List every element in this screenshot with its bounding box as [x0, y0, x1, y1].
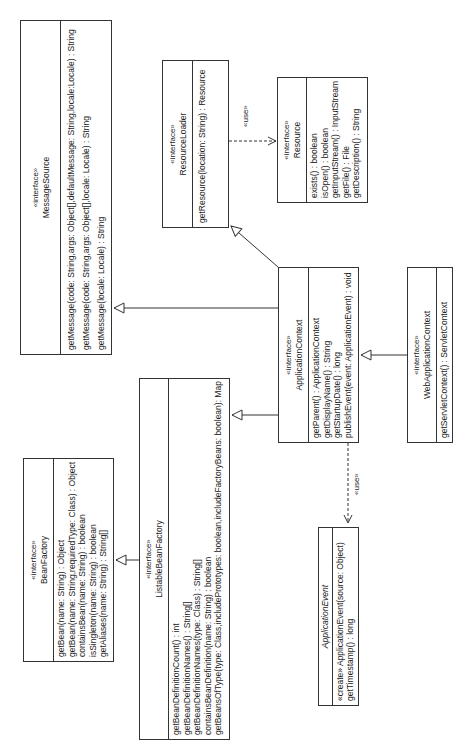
- method: getInputStream() : InputStream: [330, 82, 341, 198]
- method: getBean(name: String,requiredType: Class…: [67, 463, 78, 657]
- method: getMessage(locale: Locale) : String: [94, 25, 109, 350]
- method: getBeansOfType(type: Class,includeProtot…: [213, 383, 224, 735]
- class-message-source[interactable]: «interface» MessageSource getMessage(cod…: [20, 20, 112, 355]
- method: containsBean(name: String) : boolean: [77, 463, 88, 657]
- class-name: MessageSource: [41, 157, 52, 218]
- class-resource[interactable]: «interface» Resource exists() : boolean …: [277, 77, 368, 203]
- class-name: WebApplicationContext: [422, 311, 433, 399]
- method: isOpen() : boolean: [320, 82, 331, 198]
- class-name: ApplicationContext: [294, 320, 305, 391]
- method: containsBeanDefinition(name: String) : b…: [203, 383, 214, 735]
- stereotype: «interface»: [30, 168, 41, 208]
- stereotype: «interface»: [167, 124, 178, 164]
- class-bean-factory[interactable]: «interface» BeanFactory getBean(name: St…: [23, 458, 114, 662]
- method-list: «create» ApplicationEvent(source: Object…: [333, 528, 358, 705]
- class-header: «interface» WebApplicationContext: [408, 268, 437, 442]
- class-application-context[interactable]: «interface» ApplicationContext getParent…: [278, 267, 359, 443]
- method: getStartupDate() : long: [332, 272, 343, 438]
- method: getBeanDefinitionCount() : int: [171, 383, 182, 735]
- method: getBeanDefinitionNames() : String[]: [182, 383, 193, 735]
- method: publishEvent(event: ApplicationEvent) : …: [343, 272, 354, 438]
- class-name: Resource: [292, 122, 303, 158]
- stereotype: «interface»: [143, 539, 154, 579]
- method: getParent() : ApplicationContext: [311, 272, 322, 438]
- class-name: ListableBeanFactory: [154, 520, 165, 598]
- method: getBeanDefinitionNames(type: Class) : St…: [192, 383, 203, 735]
- class-resource-loader[interactable]: «interface» ResourceLoader getResource(l…: [162, 60, 229, 228]
- method: getMessage(code: String,args: Object[],d…: [64, 25, 79, 350]
- method-list: getServletContext() : ServletContext: [437, 268, 452, 442]
- stereotype: «interface»: [283, 335, 294, 375]
- method: isSingleton(name: String) : boolean: [88, 463, 99, 657]
- stereotype: «interface»: [281, 120, 292, 160]
- use-label-resource: «use»: [241, 105, 250, 127]
- stereotype: «interface»: [28, 540, 39, 580]
- method: exists() : boolean: [309, 82, 320, 198]
- class-name: ResourceLoader: [178, 113, 189, 176]
- class-header: «interface» ListableBeanFactory: [140, 379, 169, 739]
- class-listable-bean-factory[interactable]: «interface» ListableBeanFactory getBeanD…: [139, 378, 230, 740]
- method-list: getMessage(code: String,args: Object[],d…: [61, 21, 111, 354]
- class-header: «interface» BeanFactory: [24, 459, 54, 661]
- method-list: exists() : boolean isOpen() : boolean ge…: [307, 78, 364, 202]
- method: getResource(location: String) : Resource: [197, 65, 208, 223]
- class-header: ApplicationEvent: [319, 528, 333, 705]
- method: getFile() : File: [341, 82, 352, 198]
- class-header: «interface» ApplicationContext: [279, 268, 309, 442]
- use-label-applicationevent: «use»: [352, 473, 361, 495]
- method: getTimestamp() : long: [345, 532, 356, 701]
- method-list: getBeanDefinitionCount() : int getBeanDe…: [169, 379, 226, 739]
- generalization-appcontext-to-resourceloader: [231, 226, 278, 267]
- class-name: BeanFactory: [39, 536, 50, 584]
- class-name: ApplicationEvent: [320, 585, 331, 648]
- method: getBean(name: String) : Object: [56, 463, 67, 657]
- method: getAliases(name: String) : String[]: [98, 463, 109, 657]
- method-list: getParent() : ApplicationContext getDisp…: [309, 268, 355, 442]
- class-header: «interface» ResourceLoader: [163, 61, 193, 227]
- class-header: «interface» MessageSource: [21, 21, 61, 354]
- method-list: getResource(location: String) : Resource: [193, 61, 210, 227]
- method: getMessage(code: String,args: Object[],l…: [79, 25, 94, 350]
- method-list: getBean(name: String) : Object getBean(n…: [54, 459, 111, 661]
- stereotype: «interface»: [411, 335, 422, 375]
- method: getDisplayName() : String: [322, 272, 333, 438]
- method: «create» ApplicationEvent(source: Object…: [335, 532, 346, 701]
- class-web-application-context[interactable]: «interface» WebApplicationContext getSer…: [407, 267, 453, 443]
- method: getDescription() : String: [351, 82, 362, 198]
- method: getServletContext() : ServletContext: [439, 272, 450, 438]
- uml-diagram-canvas: «use» «use» «interface» MessageSource ge…: [0, 0, 463, 753]
- class-application-event[interactable]: ApplicationEvent «create» ApplicationEve…: [318, 527, 359, 706]
- class-header: «interface» Resource: [278, 78, 307, 202]
